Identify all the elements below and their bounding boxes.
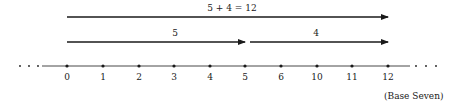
tick-label: 5 [242,72,248,82]
tick-label: 0 [64,72,70,82]
addend-label-4: 4 [313,28,319,38]
tick-label: 4 [207,72,213,82]
tick-label: 11 [346,72,357,82]
right-ellipsis [415,65,437,67]
tick-label: 10 [311,72,322,82]
tick-label: 2 [136,72,142,82]
left-ellipsis [19,65,39,67]
sum-label: 5 + 4 = 12 [207,3,256,13]
base-note: (Base Seven) [384,91,444,101]
addend-label-5: 5 [172,28,178,38]
tick-label: 3 [171,72,177,82]
tick-label: 6 [278,72,284,82]
tick-label: 12 [382,72,393,82]
tick-label: 1 [100,72,106,82]
